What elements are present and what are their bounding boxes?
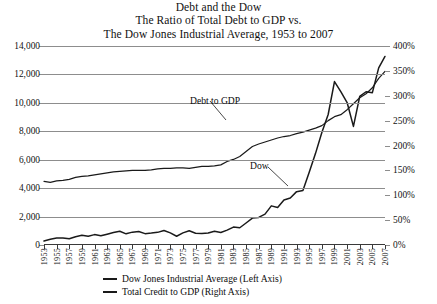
x-axis-label: 1995	[305, 248, 314, 265]
x-axis-label: 2005	[368, 248, 377, 265]
gridline	[44, 188, 385, 189]
x-axis-label: 1971	[154, 248, 163, 265]
x-axis-label: 1981	[217, 248, 226, 265]
y-axis-label-left: 8,000	[0, 126, 40, 136]
series-lines	[44, 46, 385, 245]
title-line-3: The Dow Jones Industrial Average, 1953 t…	[0, 28, 437, 41]
x-axis-label: 2001	[343, 248, 352, 265]
y-axis-label-left: 4,000	[0, 183, 40, 193]
y-axis-label-right: 200%	[393, 141, 427, 151]
legend-item-dow: Dow Jones Industrial Average (Left Axis)	[0, 272, 437, 285]
gridline	[44, 74, 385, 75]
chart-legend: Dow Jones Industrial Average (Left Axis)…	[0, 272, 437, 298]
x-axis-label: 1963	[103, 248, 112, 265]
x-axis-label: 1975	[179, 248, 188, 265]
y-axis-tick-right	[385, 46, 390, 47]
gridline	[44, 131, 385, 132]
x-axis-label: 1957	[65, 248, 74, 265]
x-axis-label: 1989	[267, 248, 276, 265]
y-axis-label-right: 0%	[393, 240, 427, 250]
x-axis-label: 2007	[381, 248, 390, 265]
plot-area	[44, 46, 385, 245]
y-axis-label-right: 50%	[393, 215, 427, 225]
y-axis-tick-right	[385, 71, 390, 72]
y-axis-label-right: 350%	[393, 66, 427, 76]
legend-swatch-icon	[103, 291, 117, 293]
y-axis-tick-right	[385, 146, 390, 147]
y-axis-label-left: 10,000	[0, 98, 40, 108]
x-axis-label: 1977	[192, 248, 201, 265]
legend-swatch-icon	[103, 278, 117, 280]
y-axis-label-right: 400%	[393, 41, 427, 51]
x-axis-label: 1961	[91, 248, 100, 265]
x-axis-label: 1997	[318, 248, 327, 265]
y-axis-label-left: 14,000	[0, 41, 40, 51]
x-axis-label: 1983	[229, 248, 238, 265]
x-axis-label: 1967	[128, 248, 137, 265]
y-axis-label-left: 0	[0, 240, 40, 250]
x-axis-label: 1953	[40, 248, 49, 265]
legend-item-credit: Total Credit to GDP (Right Axis)	[0, 285, 437, 298]
y-axis-label-left: 6,000	[0, 155, 40, 165]
x-axis-label: 1965	[116, 248, 125, 265]
x-axis-label: 1999	[330, 248, 339, 265]
gridline	[44, 160, 385, 161]
annotation-dow: Dow	[250, 160, 269, 171]
x-axis-label: 1993	[293, 248, 302, 265]
y-axis-label-right: 250%	[393, 116, 427, 126]
gridline	[44, 46, 385, 47]
x-axis-label: 1987	[255, 248, 264, 265]
y-axis-label-left: 2,000	[0, 212, 40, 222]
x-axis-label: 2003	[356, 248, 365, 265]
chart-container: Debt and the Dow The Ratio of Total Debt…	[0, 0, 437, 304]
x-axis-label: 1969	[141, 248, 150, 265]
y-axis-label-left: 12,000	[0, 69, 40, 79]
y-axis-tick-right	[385, 220, 390, 221]
x-axis-label: 1985	[242, 248, 251, 265]
y-axis-label-right: 300%	[393, 91, 427, 101]
y-axis-label-right: 150%	[393, 165, 427, 175]
y-axis-tick-right	[385, 195, 390, 196]
y-axis-tick-right	[385, 96, 390, 97]
title-line-1: Debt and the Dow	[0, 1, 437, 14]
title-line-2: The Ratio of Total Debt to GDP vs.	[0, 14, 437, 27]
legend-label-dow: Dow Jones Industrial Average (Left Axis)	[122, 273, 282, 284]
chart-title: Debt and the Dow The Ratio of Total Debt…	[0, 1, 437, 41]
x-axis-label: 1955	[53, 248, 62, 265]
y-axis-tick-right	[385, 170, 390, 171]
legend-label-credit: Total Credit to GDP (Right Axis)	[122, 286, 249, 297]
gridline	[44, 217, 385, 218]
series-line-dow	[44, 56, 385, 241]
x-axis-label: 1991	[280, 248, 289, 265]
y-axis-tick-right	[385, 121, 390, 122]
x-axis-label: 1959	[78, 248, 87, 265]
y-axis-label-right: 100%	[393, 190, 427, 200]
x-axis-label: 1973	[166, 248, 175, 265]
annotation-debt-to-gdp: Debt to GDP	[190, 95, 240, 106]
x-axis-label: 1979	[204, 248, 213, 265]
